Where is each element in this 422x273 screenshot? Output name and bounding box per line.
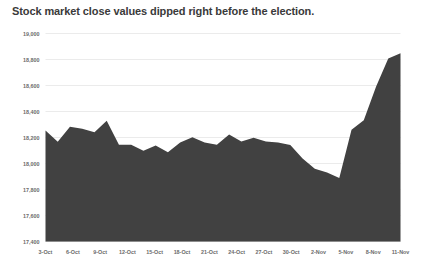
x-axis-tick-labels: 3-Oct6-Oct9-Oct12-Oct15-Oct18-Oct21-Oct2…: [39, 249, 410, 255]
y-axis-tick-label: 18,400: [23, 109, 40, 115]
chart-plot-svg: 17,40017,60017,80018,00018,20018,40018,6…: [0, 0, 422, 273]
x-axis-tick-label: 15-Oct: [146, 249, 163, 255]
x-axis-tick-label: 30-Oct: [283, 249, 300, 255]
y-axis-tick-label: 17,600: [23, 213, 40, 219]
x-axis-tick-label: 12-Oct: [119, 249, 136, 255]
x-axis-tick-label: 9-Oct: [93, 249, 107, 255]
series-area-group: [46, 53, 401, 241]
series-area-stock-market-close-value: [46, 53, 401, 241]
y-axis-tick-label: 18,800: [23, 57, 40, 63]
x-axis-tick-label: 3-Oct: [39, 249, 53, 255]
y-axis-tick-label: 18,000: [23, 161, 40, 167]
y-axis-tick-label: 19,000: [23, 31, 40, 37]
x-axis-tick-label: 5-Nov: [338, 249, 353, 255]
y-axis-tick-labels: 17,40017,60017,80018,00018,20018,40018,6…: [23, 31, 40, 245]
y-axis-tick-label: 17,800: [23, 187, 40, 193]
y-axis-tick-label: 17,400: [23, 239, 40, 245]
y-axis-tick-label: 18,200: [23, 135, 40, 141]
x-axis-tick-label: 27-Oct: [256, 249, 273, 255]
x-axis-tick-label: 6-Oct: [66, 249, 80, 255]
x-axis-tick-label: 11-Nov: [392, 249, 410, 255]
x-axis-tick-label: 18-Oct: [174, 249, 191, 255]
x-axis-tick-label: 24-Oct: [228, 249, 245, 255]
y-axis-tick-label: 18,600: [23, 83, 40, 89]
x-axis-tick-label: 2-Nov: [311, 249, 326, 255]
stock-market-area-chart: Stock market close values dipped right b…: [0, 0, 422, 273]
x-axis-tick-label: 21-Oct: [201, 249, 218, 255]
x-axis-tick-label: 8-Nov: [366, 249, 381, 255]
